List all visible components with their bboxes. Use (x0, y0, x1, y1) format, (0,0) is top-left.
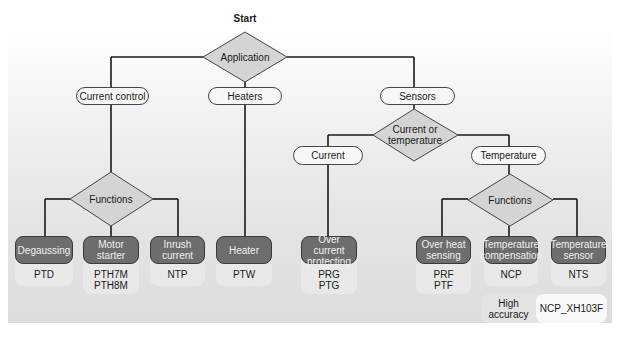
leaf-title-line: compensation (480, 250, 542, 261)
high-accuracy-code: NCP_XH103F (536, 294, 607, 323)
high-accuracy-box: High accuracy NCP_XH103F (481, 294, 607, 323)
leaf-title: Inrush current (150, 236, 205, 264)
leaf-title: Heater (216, 236, 272, 264)
leaf-title-line: Heater (229, 245, 259, 256)
code-line: NTP (150, 269, 205, 280)
leaf-inrush-current: Inrush current NTP (150, 236, 205, 286)
leaf-title-line: Motor (98, 239, 124, 250)
leaf-motor-starter: Motor starter PTH7M PTH8M (83, 236, 139, 294)
leaf-title-line: starter (97, 250, 125, 261)
leaf-heater: Heater PTW (216, 236, 272, 286)
leaf-title-line: Inrush (164, 239, 192, 250)
leaf-title: Motor starter (83, 236, 139, 264)
leaf-title: Over current protecting (301, 236, 357, 264)
code-line: NCP (484, 269, 538, 280)
leaf-degaussing: Degaussing PTD (15, 236, 73, 286)
leaf-title-line: sensing (426, 250, 460, 261)
leaf-title: Over heat sensing (416, 236, 471, 264)
current-or-temperature-label: Current or temperature (380, 124, 450, 146)
code-line: NTS (551, 269, 606, 280)
decision-line-2: temperature (388, 135, 442, 146)
leaf-title-line: Over heat (422, 239, 466, 250)
leaf-code: PTW (216, 269, 272, 280)
leaf-code: NCP (484, 269, 538, 280)
heaters-node: Heaters (208, 87, 282, 105)
code-line: PTF (416, 280, 471, 291)
label-line: High (498, 298, 519, 309)
leaf-title-line: protecting (307, 256, 351, 267)
code-line: PTH7M (83, 269, 139, 280)
leaf-title: Degaussing (15, 236, 73, 264)
sensors-node: Sensors (380, 87, 455, 105)
leaf-title-line: sensor (563, 250, 593, 261)
application-decision-label: Application (205, 50, 285, 64)
high-accuracy-label: High accuracy (481, 294, 536, 323)
label-line: accuracy (488, 309, 528, 320)
decision-line-1: Current or (392, 124, 437, 135)
leaf-code: PTH7M PTH8M (83, 269, 139, 291)
leaf-temperature-sensor: Temperature sensor NTS (551, 236, 606, 286)
leaf-title-line: Degaussing (18, 245, 71, 256)
leaf-code: NTS (551, 269, 606, 280)
leaf-code: NTP (150, 269, 205, 280)
code-line: PTD (15, 269, 73, 280)
code-line: PRF (416, 269, 471, 280)
leaf-title: Temperature compensation (484, 236, 538, 264)
leaf-code: PRG PTG (301, 269, 357, 291)
functions-left-label: Functions (80, 192, 142, 206)
leaf-title-line: Over current (302, 234, 356, 256)
current-control-node: Current control (76, 87, 149, 105)
code-line: PTH8M (83, 280, 139, 291)
leaf-over-heat-sensing: Over heat sensing PRF PTF (416, 236, 471, 294)
current-node: Current (293, 146, 363, 165)
leaf-code: PTD (15, 269, 73, 280)
code-line: PRG (301, 269, 357, 280)
functions-right-label: Functions (478, 193, 542, 207)
start-label: Start (225, 13, 265, 24)
leaf-code: PRF PTF (416, 269, 471, 291)
leaf-title-line: Temperature (550, 239, 606, 250)
code-line: PTG (301, 280, 357, 291)
leaf-title: Temperature sensor (551, 236, 606, 264)
code-line: PTW (216, 269, 272, 280)
temperature-node: Temperature (471, 146, 546, 165)
leaf-over-current-protecting: Over current protecting PRG PTG (301, 236, 357, 294)
leaf-title-line: current (162, 250, 193, 261)
leaf-title-line: Temperature (483, 239, 539, 250)
leaf-temperature-compensation: Temperature compensation NCP (484, 236, 538, 286)
